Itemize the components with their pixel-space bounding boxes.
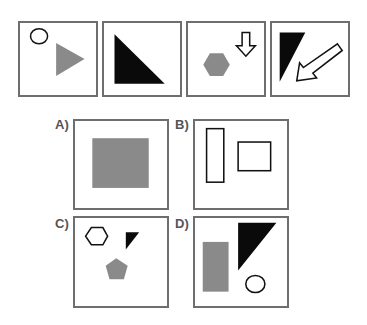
outline-tall-rectangle <box>207 129 224 183</box>
gray-square <box>92 138 148 188</box>
gray-pentagon <box>106 258 128 279</box>
gray-hexagon <box>203 53 230 76</box>
option-a-label: A) <box>55 117 69 132</box>
option-b-label: B) <box>175 117 189 132</box>
panel-1-graphic <box>20 23 96 95</box>
option-c[interactable] <box>73 216 169 308</box>
gray-rectangle <box>203 242 229 292</box>
option-d-label: D) <box>175 216 189 231</box>
option-c-label: C) <box>55 216 69 231</box>
outline-rectangle <box>238 142 271 171</box>
option-a[interactable] <box>73 119 169 210</box>
black-right-triangle <box>115 34 165 83</box>
panel-3-graphic <box>188 23 264 95</box>
option-c-graphic <box>75 218 167 306</box>
sequence-panel-1 <box>18 21 98 97</box>
outline-hexagon <box>86 228 108 245</box>
option-b-graphic <box>195 121 287 208</box>
option-d-graphic <box>195 218 287 306</box>
option-a-graphic <box>75 121 167 208</box>
black-triangle <box>280 32 306 81</box>
down-arrow-icon <box>236 32 255 56</box>
option-b[interactable] <box>193 119 289 210</box>
black-triangle <box>238 223 276 271</box>
panel-2-graphic <box>104 23 180 95</box>
option-d[interactable] <box>193 216 289 308</box>
sequence-panel-4 <box>270 21 350 97</box>
gray-triangle <box>56 43 84 76</box>
outline-circle <box>31 29 48 44</box>
sequence-panel-3 <box>186 21 266 97</box>
panel-4-graphic <box>272 23 348 95</box>
sequence-panel-2 <box>102 21 182 97</box>
down-left-arrow-icon <box>297 44 342 81</box>
outline-circle <box>246 275 265 292</box>
black-small-triangle <box>126 232 139 249</box>
